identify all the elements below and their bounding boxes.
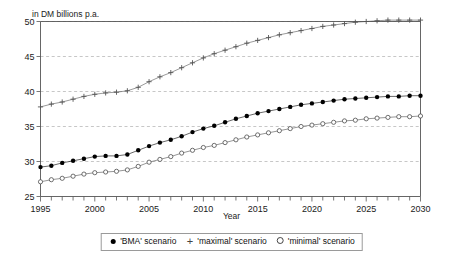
filled-circle-icon	[108, 237, 117, 246]
legend-item-3: 'minimal' scenario	[276, 236, 355, 247]
svg-text:30: 30	[24, 157, 34, 167]
svg-text:45: 45	[24, 52, 34, 62]
chart-legend: 'BMA' scenario+'maximal' scenario'minima…	[100, 233, 363, 251]
y-axis-ticks	[37, 22, 41, 197]
legend-label: 'BMA' scenario	[120, 236, 176, 247]
series-lines-group	[41, 20, 421, 182]
legend-label: 'maximal' scenario	[197, 236, 266, 247]
x-axis-label: Year	[0, 211, 463, 221]
legend-item-2: +'maximal' scenario	[185, 236, 266, 247]
series-markers-group	[38, 18, 423, 184]
chart-unit-title: in DM billions p.a.	[32, 9, 99, 19]
legend-label: 'minimal' scenario	[288, 236, 355, 247]
gridlines-group	[41, 22, 421, 162]
legend-item-1: 'BMA' scenario	[108, 236, 176, 247]
chart-figure: in DM billions p.a. 253035404550 1995200…	[0, 0, 463, 261]
svg-text:25: 25	[24, 192, 34, 202]
svg-text:40: 40	[24, 87, 34, 97]
plot-frame	[41, 22, 421, 197]
x-axis-ticks	[41, 197, 421, 202]
line-chart-plot: 253035404550 199520002005201020152020202…	[0, 0, 463, 261]
open-circle-icon	[276, 237, 285, 246]
y-axis-tick-labels: 253035404550	[24, 17, 34, 202]
plus-icon: +	[185, 237, 194, 247]
svg-text:35: 35	[24, 122, 34, 132]
